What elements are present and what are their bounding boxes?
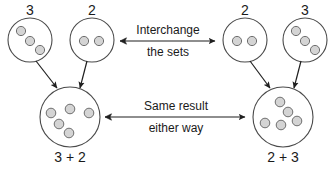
left-set-a-group (8, 18, 52, 62)
set-dot (232, 36, 241, 45)
right-set-a-group (223, 18, 267, 62)
set-dot (84, 108, 94, 118)
set-dot (25, 36, 34, 45)
set-dot (64, 128, 74, 138)
arrow-right-b-to-result (294, 61, 301, 88)
set-count-left-a: 3 (16, 2, 44, 18)
interchange-double-arrow (120, 38, 215, 44)
set-dot (79, 36, 88, 45)
set-circle-right-a (223, 18, 267, 62)
set-dot (300, 36, 309, 45)
annotation-same-result-line2: either way (140, 121, 212, 135)
set-count-right-a: 2 (231, 2, 259, 18)
set-count-right-b: 3 (291, 2, 319, 18)
set-dot (94, 36, 103, 45)
arrow-left-b-to-result (80, 61, 87, 88)
set-dot (247, 36, 256, 45)
arrow-left-a-to-result (36, 61, 57, 88)
annotation-interchange-line2: the sets (133, 45, 203, 59)
annotation-same-result-line1: Same result (140, 99, 212, 113)
left-result-group (40, 87, 100, 147)
sum-label-left: 3 + 2 (40, 149, 100, 165)
set-dot (291, 26, 300, 35)
set-dot (16, 26, 25, 35)
set-dot (275, 97, 285, 107)
set-dot (65, 104, 75, 114)
set-dot (310, 45, 319, 54)
arrow-right-a-to-result (250, 61, 270, 88)
set-dot (283, 107, 293, 117)
set-dot (46, 108, 56, 118)
set-dot (54, 119, 64, 129)
set-dot (276, 120, 286, 130)
set-circle-left-b (70, 18, 114, 62)
set-dot (35, 45, 44, 54)
sum-label-right: 2 + 3 (253, 149, 313, 165)
right-result-group (253, 87, 313, 147)
set-dot (292, 116, 302, 126)
left-set-b-group (70, 18, 114, 62)
diagram-canvas: 3 2 2 3 3 + 2 2 + 3 Interchange the sets… (0, 0, 335, 171)
set-count-left-b: 2 (78, 2, 106, 18)
annotation-interchange-line1: Interchange (133, 23, 203, 37)
set-dot (260, 118, 270, 128)
same-result-double-arrow (105, 114, 245, 120)
set-circle-right-result (253, 87, 313, 147)
right-set-b-group (283, 18, 327, 62)
